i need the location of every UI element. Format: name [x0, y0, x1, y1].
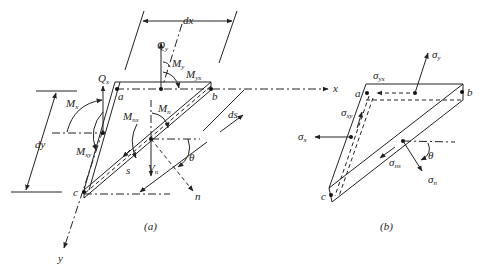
sigma-n-arrow	[403, 141, 422, 171]
y-axis-label: y	[57, 252, 63, 264]
label-a: a	[118, 90, 124, 102]
sigma-xy-arrow	[357, 112, 362, 128]
mns-label: Mns	[122, 110, 139, 124]
qx-label: Qx	[98, 72, 110, 86]
caption-b: (b)	[380, 220, 393, 233]
sigma-xy-label: σxy	[341, 106, 354, 120]
sigma-yx-label: σyx	[373, 69, 386, 83]
mxy-arc	[93, 112, 103, 150]
sigma-ns-label: σns	[389, 156, 401, 170]
label-c: c	[73, 186, 78, 198]
my-label: My	[171, 57, 185, 71]
x-axis-label: x	[332, 82, 338, 94]
myx-label: Myx	[185, 68, 202, 82]
panel-a: dx dy x y	[11, 11, 338, 264]
point-c	[82, 190, 86, 194]
mx-label: Mx	[65, 97, 79, 111]
qy-label: Qy	[157, 39, 169, 53]
s-label: s	[126, 164, 130, 176]
vn-label: Vn	[148, 162, 159, 176]
point-a-b	[365, 91, 369, 95]
label-a-b: a	[355, 87, 361, 99]
n-axis	[151, 139, 193, 191]
dx-label: dx	[183, 14, 194, 26]
theta-label-b: θ	[428, 149, 434, 161]
myx-arc	[163, 72, 179, 88]
dy-label: dy	[35, 138, 46, 150]
mn-label: Mn	[157, 102, 171, 116]
caption-a: (a)	[144, 220, 157, 233]
label-c-b: c	[321, 190, 326, 202]
plate-element-diagram: dx dy x y	[0, 0, 481, 272]
point-b-b	[460, 90, 464, 94]
sigma-y-label: σy	[432, 48, 441, 62]
ds-label: ds	[228, 108, 238, 120]
label-b-b: b	[467, 86, 473, 98]
sigma-n-label: σn	[428, 173, 437, 187]
ds-extension	[203, 90, 244, 131]
sigma-x-label: σx	[298, 130, 307, 144]
n-label: n	[195, 190, 201, 202]
panel-b: a b c σy σyx σxy σx σn θ σns (b)	[298, 48, 473, 233]
sigma-y-arrow	[415, 53, 428, 93]
point-c-b	[329, 193, 333, 197]
label-b: b	[212, 90, 218, 102]
mxy-label: Mxy	[75, 145, 92, 159]
theta-label-a: θ	[189, 151, 195, 163]
